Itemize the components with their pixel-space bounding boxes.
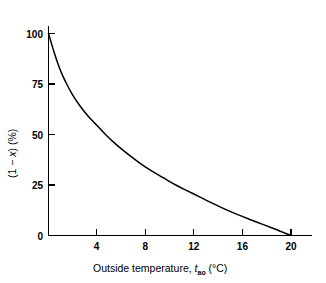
x-axis-title: Outside temperature, tao (°C) [93,262,227,276]
y-axis-title-part1: (1 − [6,157,18,178]
y-tick-label-75: 75 [32,79,44,90]
x-tick-label-12: 12 [188,241,200,252]
svg-text:Outside temperature, tao (°C): Outside temperature, tao (°C) [93,262,227,276]
x-tick-label-8: 8 [142,241,148,252]
svg-text:(1 − x) (%): (1 − x) (%) [6,129,18,178]
x-axis-tick-labels: 4 8 12 16 20 [94,241,297,252]
chart-figure: 100 75 50 25 0 4 8 12 16 20 Outside t [0,0,326,283]
y-tick-label-25: 25 [32,180,44,191]
data-curve-line [49,34,292,236]
y-axis-title: (1 − x) (%) [6,129,18,178]
y-tick-label-100: 100 [26,29,43,40]
x-axis-ticks [97,229,291,236]
x-axis-title-units: (°C) [206,262,228,274]
y-axis-tick-labels: 100 75 50 25 0 [26,29,43,242]
x-axis-title-text: Outside temperature, [93,262,195,274]
y-axis-title-part2: ) (%) [6,129,18,152]
y-tick-label-0: 0 [37,231,43,242]
x-tick-label-20: 20 [285,241,297,252]
x-tick-label-16: 16 [237,241,249,252]
x-axis-title-subscript: ao [197,269,205,276]
x-tick-label-4: 4 [94,241,100,252]
y-axis-ticks [49,34,56,236]
y-tick-label-50: 50 [32,130,44,141]
chart-plot-area: 100 75 50 25 0 4 8 12 16 20 Outside t [0,0,326,283]
